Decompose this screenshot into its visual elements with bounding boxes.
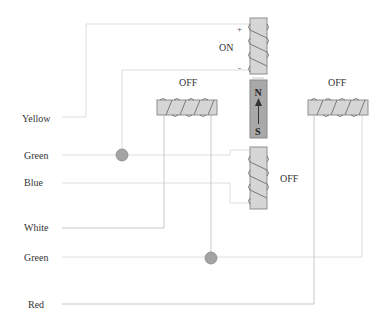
wire-white	[62, 115, 164, 228]
wire-label-blue: Blue	[24, 177, 43, 188]
stepper-motor-wiring-diagram: Yellow Green Blue White Green Red + ON -…	[0, 0, 387, 330]
coil-bottom-vertical	[249, 147, 269, 209]
junction-node-green-1	[116, 149, 128, 161]
wire-label-green-2: Green	[24, 252, 48, 263]
wire-label-red: Red	[28, 299, 44, 310]
wire-blue	[62, 183, 250, 203]
coil-right-horizontal	[308, 99, 368, 117]
magnet-north-label: N	[255, 87, 263, 98]
wire-green-1	[62, 150, 250, 155]
magnet-south-label: S	[255, 126, 261, 137]
coil-top-minus-sign: -	[238, 63, 241, 73]
coil-top-plus-sign: +	[237, 24, 242, 34]
wire-label-yellow: Yellow	[22, 113, 51, 124]
coil-bottom-state-label: OFF	[280, 173, 299, 184]
coil-left-horizontal	[157, 99, 217, 117]
coil-right-state-label: OFF	[328, 77, 347, 88]
wire-label-white: White	[24, 222, 49, 233]
wire-label-green-1: Green	[24, 150, 48, 161]
wire-green-2	[62, 115, 362, 257]
coil-top-vertical	[249, 18, 269, 78]
coil-top-state-label: ON	[219, 42, 233, 53]
wire-red	[62, 115, 314, 304]
coil-left-state-label: OFF	[179, 77, 198, 88]
junction-node-green-2	[205, 252, 217, 264]
